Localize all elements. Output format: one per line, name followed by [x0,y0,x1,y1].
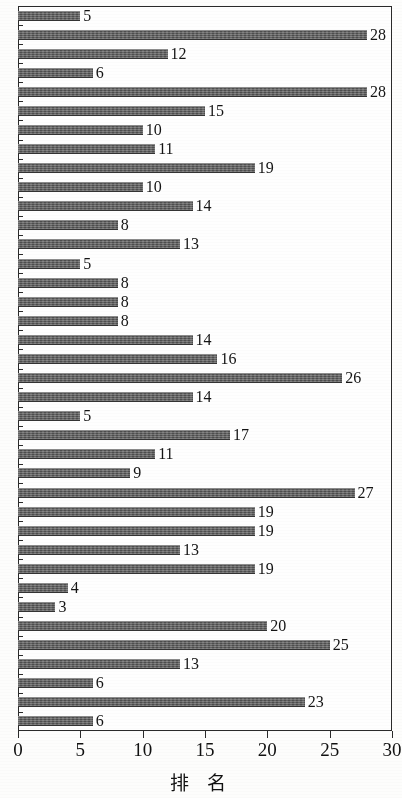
bar-row: 15 [18,101,392,120]
y-axis-tick [18,63,23,64]
x-axis-tick [143,731,144,738]
bar-value-label: 8 [121,217,129,233]
x-axis-tick-label: 5 [76,740,86,759]
x-axis-tick [267,731,268,738]
bar [18,87,367,97]
bar-row: 28 [18,25,392,44]
bar-value-label: 13 [183,542,199,558]
bar-row: 11 [18,140,392,159]
bar-value-label: 14 [196,198,212,214]
bar-value-label: 20 [270,618,286,634]
bar-row: 19 [18,559,392,578]
bar [18,201,193,211]
x-axis-tick-label: 20 [258,740,277,759]
bar-value-label: 28 [370,84,386,100]
bar [18,220,118,230]
bar-value-label: 14 [196,332,212,348]
bar-value-label: 12 [171,46,187,62]
bar-value-label: 3 [58,599,66,615]
bar-value-label: 23 [308,694,324,710]
y-axis-tick [18,25,23,26]
bar [18,106,205,116]
y-axis-tick [18,311,23,312]
bar [18,335,193,345]
bar [18,316,118,326]
bar-row: 13 [18,655,392,674]
bar-series: 5281262815101119101481358881416261451711… [18,6,392,731]
bar-value-label: 15 [208,103,224,119]
y-axis-tick [18,254,23,255]
bar-row: 4 [18,578,392,597]
x-axis-tick [80,731,81,738]
bar-row: 28 [18,82,392,101]
bar-value-label: 27 [358,485,374,501]
bar [18,144,155,154]
y-axis-tick [18,120,23,121]
bar-row: 20 [18,617,392,636]
bar-row: 13 [18,540,392,559]
bar-row: 12 [18,44,392,63]
bar-row: 14 [18,330,392,349]
bar-value-label: 19 [258,523,274,539]
y-axis-tick [18,521,23,522]
bar-value-label: 13 [183,656,199,672]
y-axis-tick [18,369,23,370]
y-axis-tick [18,44,23,45]
bar [18,583,68,593]
y-axis-tick [18,273,23,274]
bar [18,30,367,40]
bar [18,621,267,631]
bar-value-label: 19 [258,561,274,577]
bar-value-label: 6 [96,675,104,691]
y-axis-tick [18,540,23,541]
bar-row: 27 [18,483,392,502]
y-axis-tick [18,82,23,83]
bar [18,602,55,612]
x-axis-tick-label: 30 [383,740,402,759]
bar [18,716,93,726]
bar-value-label: 13 [183,236,199,252]
y-axis-tick [18,330,23,331]
x-axis-tick-label: 0 [13,740,23,759]
bar-row: 17 [18,426,392,445]
bar-row: 10 [18,120,392,139]
bar-value-label: 19 [258,160,274,176]
y-axis-tick [18,464,23,465]
y-axis-tick [18,407,23,408]
bar [18,125,143,135]
bar [18,182,143,192]
x-axis-tick-label: 10 [133,740,152,759]
bar [18,507,255,517]
bar [18,297,118,307]
y-axis-tick [18,712,23,713]
x-axis-tick-label: 25 [320,740,339,759]
y-axis-tick [18,636,23,637]
bar-value-label: 9 [133,465,141,481]
bar-row: 5 [18,407,392,426]
bar-value-label: 4 [71,580,79,596]
bar [18,640,330,650]
bar [18,545,180,555]
bar-value-label: 10 [146,122,162,138]
bar [18,68,93,78]
bar-row: 10 [18,178,392,197]
bar-row: 6 [18,63,392,82]
bar-row: 6 [18,674,392,693]
y-axis-tick [18,101,23,102]
y-axis-tick [18,216,23,217]
x-axis-tick [392,731,393,738]
y-axis-tick [18,349,23,350]
x-axis-tick-label: 15 [196,740,215,759]
bar [18,259,80,269]
bar-value-label: 10 [146,179,162,195]
bar-row: 14 [18,197,392,216]
bar-value-label: 26 [345,370,361,386]
bar-value-label: 6 [96,65,104,81]
bar-value-label: 5 [83,8,91,24]
bar [18,526,255,536]
x-axis-title: 排 名 [0,768,402,795]
y-axis-tick [18,159,23,160]
bar [18,468,130,478]
bar-row: 14 [18,388,392,407]
bar-row: 26 [18,369,392,388]
